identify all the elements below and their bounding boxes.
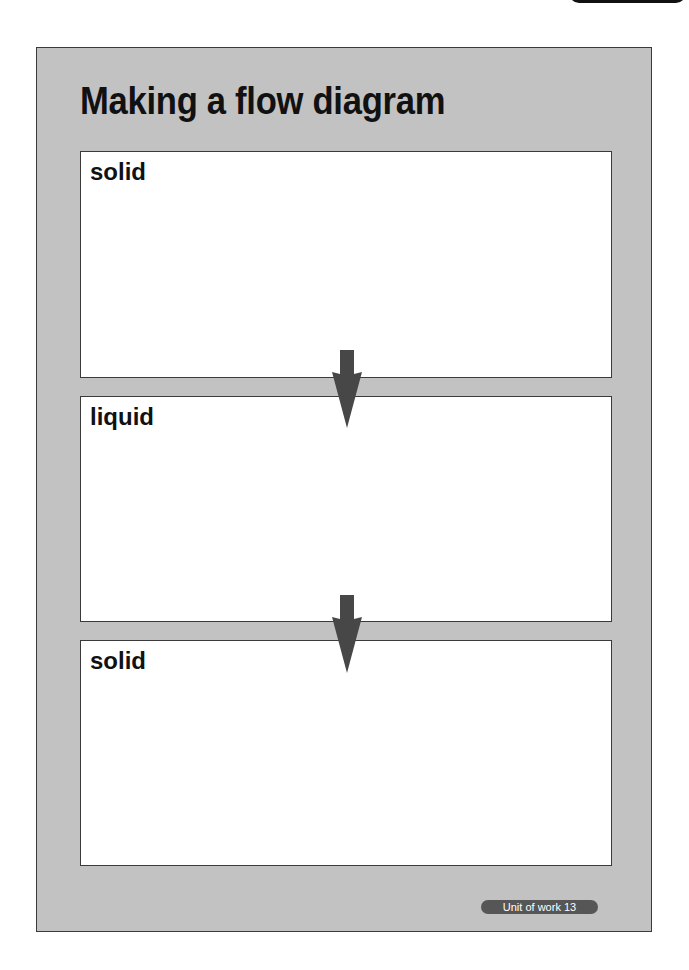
page-corner-tab (569, 0, 686, 3)
stage-label: solid (90, 647, 146, 675)
stage-label: solid (90, 158, 146, 186)
down-arrow-icon (331, 350, 363, 430)
stage-box-1[interactable]: solid (80, 151, 612, 378)
stage-label: liquid (90, 403, 154, 431)
down-arrow-icon (331, 595, 363, 675)
page-title: Making a flow diagram (80, 79, 445, 123)
unit-of-work-badge: Unit of work 13 (481, 900, 598, 914)
